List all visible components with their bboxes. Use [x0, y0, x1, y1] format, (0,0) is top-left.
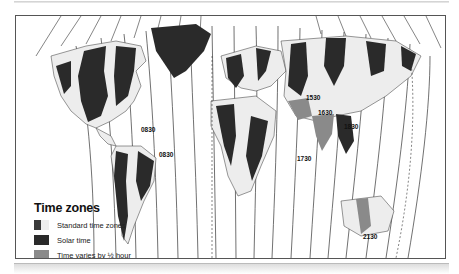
map-legend: Time zones Standard time zones Solar tim…: [34, 201, 164, 259]
label-1530: 1530: [306, 94, 320, 101]
half-hour-swatch-icon: [34, 250, 49, 259]
label-2130: 2130: [363, 233, 377, 240]
label-0830-south: 0830: [159, 151, 173, 158]
time-zone-map: 0830 0830 1530 1630 1830 1730 2130 Time …: [15, 15, 446, 259]
solar-swatch-icon: [34, 235, 49, 245]
page-top-rule: [14, 1, 449, 3]
legend-item-solar: Solar time: [34, 235, 164, 245]
page-bottom-rule: [14, 263, 449, 274]
label-1630: 1630: [318, 109, 332, 116]
label-0830-north: 0830: [141, 126, 155, 133]
label-1830: 1830: [344, 123, 358, 130]
legend-item-half-hour: Time varies by ½ hour: [34, 250, 164, 259]
standard-swatch-icon: [34, 220, 49, 230]
date-line-right: [396, 61, 413, 258]
legend-title: Time zones: [34, 201, 164, 215]
india: [312, 114, 334, 151]
label-1730: 1730: [297, 155, 311, 162]
greenland: [151, 24, 211, 78]
legend-item-standard: Standard time zones: [34, 220, 164, 230]
